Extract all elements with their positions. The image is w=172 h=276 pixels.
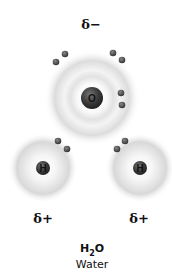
formula-h: H bbox=[80, 242, 89, 255]
formula-o: O bbox=[95, 242, 104, 255]
electron-dot bbox=[122, 138, 129, 145]
electron-dot bbox=[64, 146, 71, 153]
electron-dot bbox=[119, 102, 126, 109]
electron-dot bbox=[110, 50, 117, 57]
hydrogen-nucleus: H bbox=[36, 161, 50, 175]
electron-dot bbox=[114, 146, 121, 153]
oxygen-partial-charge: δ− bbox=[81, 17, 101, 32]
electron-dot bbox=[118, 90, 125, 97]
hydrogen-nucleus: H bbox=[133, 161, 147, 175]
svg-text:H: H bbox=[136, 163, 143, 174]
water-molecule-diagram: OHH δ− δ+ δ+ H2O Water bbox=[0, 0, 172, 276]
hydrogen-left-partial-charge: δ+ bbox=[33, 211, 53, 226]
electron-dot bbox=[53, 59, 60, 66]
electron-dot bbox=[55, 138, 62, 145]
molecule-formula: H2O bbox=[80, 242, 104, 257]
electron-dot bbox=[119, 57, 126, 64]
electron-dot bbox=[62, 51, 69, 58]
molecule-drawing: OHH bbox=[0, 0, 172, 276]
svg-text:O: O bbox=[88, 93, 96, 104]
hydrogen-right-partial-charge: δ+ bbox=[129, 211, 149, 226]
molecule-name: Water bbox=[76, 258, 109, 271]
oxygen-nucleus: O bbox=[81, 87, 103, 109]
svg-text:H: H bbox=[39, 163, 46, 174]
electron-clouds bbox=[8, 50, 172, 203]
